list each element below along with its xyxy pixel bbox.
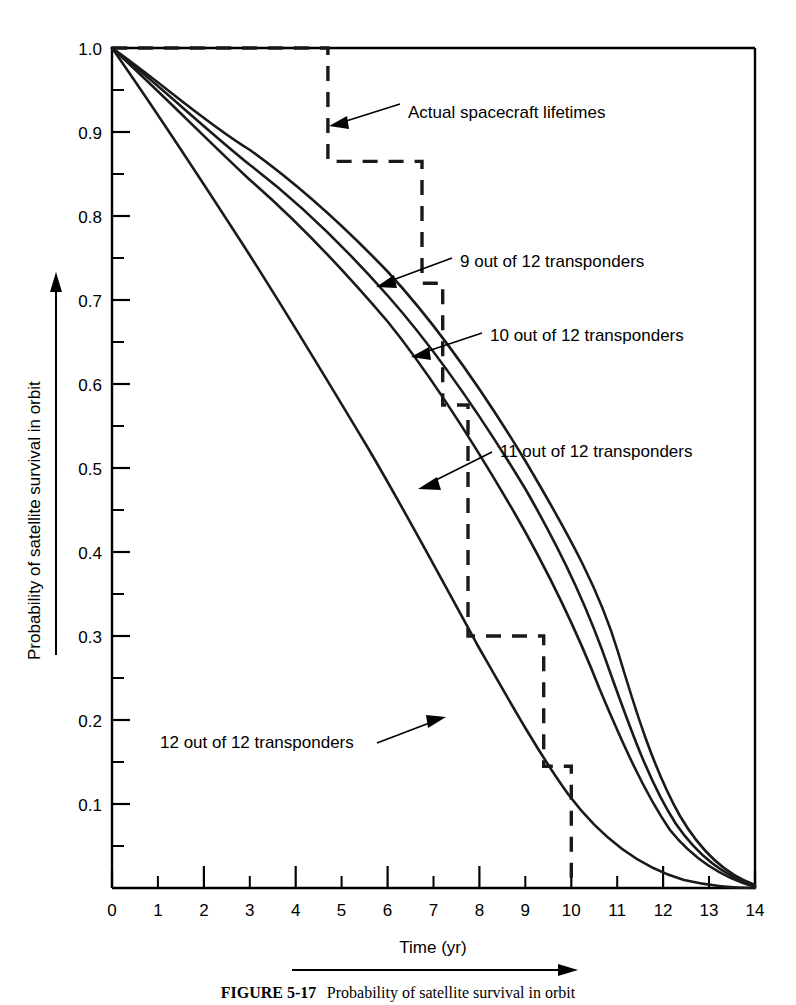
x-tick-label: 7	[429, 901, 438, 920]
y-tick-label: 0.7	[78, 292, 102, 311]
y-tick-label: 0.2	[78, 712, 102, 731]
figure-caption-container: FIGURE 5-17 Probability of satellite sur…	[0, 982, 796, 1005]
y-tick-label: 0.5	[78, 460, 102, 479]
annotation-9-of-12: 9 out of 12 transponders	[376, 252, 644, 288]
figure-container: 1.0 0.9 0.8 0.7 0.6 0.5 0.4 0.3 0.2 0.1	[0, 0, 796, 1005]
leader-arrow-head	[376, 275, 397, 288]
annotation-12-of-12: 12 out of 12 transponders	[160, 715, 446, 752]
annotation-label-twelve: 12 out of 12 transponders	[160, 733, 354, 752]
y-axis-title: Probability of satellite survival in orb…	[25, 381, 44, 660]
x-axis-arrow-head	[558, 964, 578, 976]
actual-spacecraft-lifetimes-step-curve	[112, 48, 571, 888]
y-tick-label: 0.6	[78, 376, 102, 395]
x-tick-label: 9	[521, 901, 530, 920]
y-tick-label: 0.3	[78, 628, 102, 647]
annotation-label-actual: Actual spacecraft lifetimes	[408, 103, 605, 122]
figure-caption-text: Probability of satellite survival in orb…	[327, 984, 576, 1002]
x-tick-label: 14	[746, 901, 765, 920]
y-tick-label: 1.0	[78, 40, 102, 59]
leader-line	[425, 333, 482, 352]
x-tick-label: 4	[291, 901, 300, 920]
x-tick-label: 2	[199, 901, 208, 920]
x-tick-label: 12	[654, 901, 673, 920]
x-tick-label: 1	[153, 901, 162, 920]
x-tick-label: 6	[383, 901, 392, 920]
y-axis-title-group: Probability of satellite survival in orb…	[25, 272, 62, 660]
x-tick-label: 3	[245, 901, 254, 920]
y-axis-ticks	[112, 48, 130, 846]
leader-arrow-head	[329, 116, 349, 129]
x-tick-label: 13	[700, 901, 719, 920]
annotation-label-nine: 9 out of 12 transponders	[460, 252, 644, 271]
survival-probability-chart: 1.0 0.9 0.8 0.7 0.6 0.5 0.4 0.3 0.2 0.1	[0, 0, 796, 1005]
curve-9-of-12	[112, 48, 755, 885]
x-axis-tick-labels: 0 1 2 3 4 5 6 7 8 9 10 11 12 13 14	[107, 901, 764, 920]
annotation-label-eleven: 11 out of 12 transponders	[500, 442, 693, 461]
y-axis-tick-labels: 1.0 0.9 0.8 0.7 0.6 0.5 0.4 0.3 0.2 0.1	[78, 40, 102, 815]
figure-caption-svg: FIGURE 5-17 Probability of satellite sur…	[0, 982, 796, 1005]
leader-line	[377, 722, 432, 743]
curve-11-of-12	[112, 48, 755, 887]
x-axis-title-group: Time (yr)	[292, 938, 578, 976]
x-tick-label: 11	[608, 901, 626, 920]
leader-line	[343, 104, 400, 122]
annotation-11-of-12: 11 out of 12 transponders	[418, 442, 693, 490]
x-tick-label: 8	[475, 901, 484, 920]
x-tick-label: 10	[562, 901, 581, 920]
y-axis-arrow-head	[50, 272, 62, 292]
leader-line	[432, 452, 492, 482]
figure-caption: FIGURE 5-17 Probability of satellite sur…	[221, 984, 576, 1002]
x-tick-label: 0	[107, 901, 116, 920]
annotation-label-ten: 10 out of 12 transponders	[490, 326, 684, 345]
plot-frame	[112, 48, 755, 888]
x-tick-label: 5	[337, 901, 346, 920]
figure-caption-label: FIGURE 5-17	[221, 984, 317, 1001]
x-axis-title: Time (yr)	[399, 938, 466, 957]
leader-arrow-head	[426, 715, 446, 728]
y-tick-label: 0.4	[78, 544, 102, 563]
y-tick-label: 0.1	[78, 796, 102, 815]
annotation-actual-spacecraft-lifetimes: Actual spacecraft lifetimes	[329, 103, 605, 129]
leader-arrow-head	[418, 477, 441, 490]
y-tick-label: 0.9	[78, 124, 102, 143]
annotation-10-of-12: 10 out of 12 transponders	[411, 326, 684, 360]
y-tick-label: 0.8	[78, 208, 102, 227]
curve-10-of-12	[112, 48, 755, 886]
curve-12-of-12	[112, 48, 755, 888]
